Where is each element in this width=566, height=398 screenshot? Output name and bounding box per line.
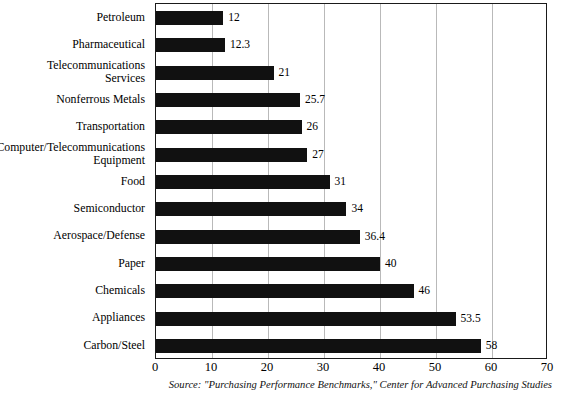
bar-value-label: 40 [385,258,397,270]
bar [156,312,456,326]
x-tick-label: 20 [261,361,274,374]
bar [156,175,330,189]
bar [156,120,302,134]
bar-row: 40 [156,257,548,271]
category-label: Aerospace/Defense [53,229,145,242]
bar-value-label: 36.4 [365,231,385,243]
bar [156,38,225,52]
category-label: Petroleum [97,11,146,24]
bar-value-label: 46 [419,286,431,298]
bar-row: 36.4 [156,230,548,244]
category-label: Appliances [92,311,145,324]
bar-row: 34 [156,202,548,216]
bar-value-label: 58 [486,340,498,352]
bar-row: 25.7 [156,93,548,107]
bar-row: 53.5 [156,312,548,326]
bar-row: 12.3 [156,38,548,52]
bar [156,257,380,271]
bar [156,339,481,353]
x-axis-tick-labels: 010203040506070 [155,361,547,379]
category-axis-labels: PetroleumPharmaceuticalTelecommunication… [0,3,150,359]
category-label: Paper [118,257,145,270]
x-tick-label: 10 [205,361,218,374]
x-tick-label: 40 [373,361,386,374]
bar-value-label: 26 [307,122,319,134]
x-tick-label: 0 [152,361,158,374]
source-note: Source: "Purchasing Performance Benchmar… [0,379,552,391]
x-tick-label: 60 [485,361,498,374]
category-label: Pharmaceutical [72,38,145,51]
bar-row: 21 [156,66,548,80]
bar-value-label: 25.7 [305,94,325,106]
category-label: Chemicals [95,284,145,297]
bar-row: 58 [156,339,548,353]
plot-area: 1212.32125.72627313436.4404653.558 [155,3,547,359]
bar-chart-figure: PetroleumPharmaceuticalTelecommunication… [0,0,566,398]
bar-row: 27 [156,148,548,162]
bar-value-label: 53.5 [461,313,481,325]
bar [156,66,274,80]
category-label: Computer/Telecommunications Equipment [0,141,145,167]
category-label: Nonferrous Metals [56,93,145,106]
category-label: Food [121,175,145,188]
bar [156,284,414,298]
x-tick-label: 30 [317,361,330,374]
bar-row: 26 [156,120,548,134]
bar-value-label: 34 [351,204,363,216]
bar [156,148,307,162]
bar [156,230,360,244]
category-label: Telecommunications Services [47,59,145,85]
bar-row: 46 [156,284,548,298]
category-label: Semiconductor [74,202,145,215]
bar [156,11,223,25]
category-label: Carbon/Steel [83,339,145,352]
bar-value-label: 12 [228,12,240,24]
bar [156,93,300,107]
bar-row: 12 [156,11,548,25]
bar-value-label: 27 [312,149,324,161]
category-label: Transportation [76,120,145,133]
bar-value-label: 31 [335,176,347,188]
x-tick-label: 70 [541,361,554,374]
bars-layer: 1212.32125.72627313436.4404653.558 [156,4,546,358]
bar [156,202,346,216]
x-tick-label: 50 [429,361,442,374]
bar-value-label: 12.3 [230,40,250,52]
bar-row: 31 [156,175,548,189]
bar-value-label: 21 [279,67,291,79]
